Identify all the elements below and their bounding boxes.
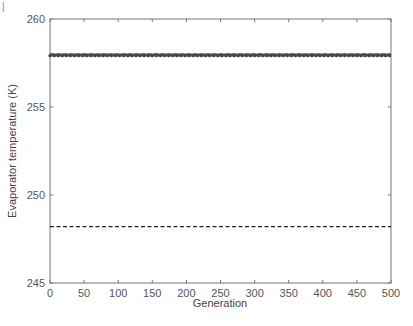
y-axis-label: Evaporator temperature (K) <box>6 84 18 218</box>
axes-frame <box>50 19 391 283</box>
y-tick-label: 245 <box>27 277 45 289</box>
corner-mark: | <box>2 1 5 12</box>
x-axis: 050100150200250300350400450500 <box>47 19 400 299</box>
x-tick-label: 50 <box>78 287 90 299</box>
plot-area <box>48 19 391 283</box>
x-tick-label: 300 <box>245 287 263 299</box>
chart: | 050100150200250300350400450500 2452502… <box>0 0 413 326</box>
x-tick-label: 500 <box>382 287 400 299</box>
x-tick-label: 400 <box>314 287 332 299</box>
x-tick-label: 450 <box>348 287 366 299</box>
x-tick-label: 100 <box>109 287 127 299</box>
x-tick-label: 150 <box>143 287 161 299</box>
x-axis-label: Generation <box>193 297 247 309</box>
y-tick-label: 250 <box>27 189 45 201</box>
x-tick-label: 0 <box>47 287 53 299</box>
y-tick-label: 260 <box>27 13 45 25</box>
y-tick-label: 255 <box>27 101 45 113</box>
x-tick-label: 350 <box>280 287 298 299</box>
